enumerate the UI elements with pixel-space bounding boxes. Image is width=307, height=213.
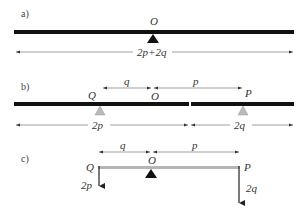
top-p-label: p (192, 75, 199, 87)
top-q-label: q (124, 75, 130, 87)
fulcrum-icon (147, 34, 159, 43)
top-q-label: q (120, 139, 126, 151)
point-q-label: Q (88, 89, 96, 101)
lever-diagram: a) O 2p+2q b) q p Q O P 2p 2q c) (0, 0, 307, 213)
pivot-o-label: O (150, 15, 158, 27)
pivot-o-label: O (151, 90, 159, 102)
panel-b: b) q p Q O P 2p 2q (14, 75, 294, 131)
panel-a: a) O 2p+2q (14, 8, 294, 58)
panel-a-label: a) (21, 8, 29, 20)
length-label: 2p+2q (137, 46, 167, 58)
bottom-2q-label: 2q (234, 119, 246, 131)
force-2q-label: 2q (246, 182, 258, 194)
panel-c-label: c) (21, 153, 29, 165)
pivot-o-label: O (148, 154, 156, 166)
panel-b-label: b) (21, 81, 29, 93)
support-q-icon (95, 106, 105, 115)
point-p-label: P (244, 87, 252, 99)
fulcrum-icon (145, 169, 157, 178)
panel-c: c) q p Q O P 2p 2q (21, 139, 258, 203)
point-p-label: P (243, 161, 251, 173)
gray-lever-bar (98, 166, 240, 169)
lever-bar-right-segment (191, 102, 294, 106)
bottom-2p-label: 2p (92, 119, 104, 131)
lever-bar-left-segment (14, 102, 189, 106)
top-p-label: p (191, 139, 198, 151)
support-p-icon (238, 106, 248, 115)
lever-bar (14, 30, 294, 34)
point-q-label: Q (86, 161, 94, 173)
force-2p-label: 2p (81, 179, 93, 191)
